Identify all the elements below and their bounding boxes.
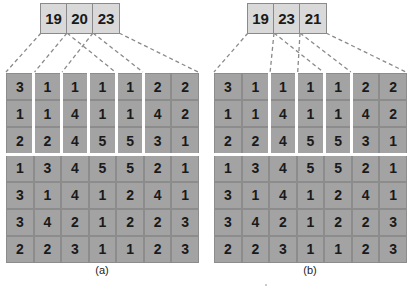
connector-line [6, 33, 41, 72]
matrix-cell: 1 [116, 236, 144, 263]
matrix-cell: 3 [34, 154, 62, 181]
matrix-cell: 2 [214, 127, 242, 154]
matrix-cell: 1 [89, 100, 117, 127]
matrix-cell: 4 [269, 154, 297, 181]
group-separator [295, 73, 298, 154]
matrix-cell: 1 [171, 127, 199, 154]
matrix-cell: 2 [352, 154, 380, 181]
matrix-cell: 3 [214, 182, 242, 209]
matrix-cell: 2 [171, 73, 199, 100]
matrix-cell: 2 [116, 209, 144, 236]
matrix-cell: 1 [324, 236, 352, 263]
matrix-cell: 4 [61, 182, 89, 209]
connector-line [300, 33, 351, 72]
row-group-separator [6, 153, 199, 156]
matrix-cell: 1 [242, 100, 270, 127]
matrix-cell: 3 [171, 209, 199, 236]
matrix-cell: 5 [297, 127, 325, 154]
matrix-cell: 1 [34, 73, 62, 100]
matrix-cell: 2 [214, 236, 242, 263]
matrix-cell: 1 [116, 100, 144, 127]
matrix-cell: 2 [6, 127, 34, 154]
matrix-cell: 1 [269, 73, 297, 100]
matrix-cell: 5 [89, 154, 117, 181]
matrix-cell: 2 [6, 236, 34, 263]
matrix-cell: 3 [61, 236, 89, 263]
matrix-cell: 2 [144, 236, 172, 263]
matrix-cell: 2 [34, 127, 62, 154]
group-separator [115, 73, 118, 154]
panel-a: 192023 311112211411422245531134552131412… [0, 0, 204, 291]
matrix-cell: 1 [34, 182, 62, 209]
matrix-cell: 2 [116, 182, 144, 209]
matrix-cell: 3 [6, 73, 34, 100]
matrix-cell: 2 [379, 100, 407, 127]
matrix-cell: 1 [379, 127, 407, 154]
sum-cell: 23 [93, 4, 119, 33]
sum-cell: 23 [274, 4, 300, 33]
group-separator [268, 73, 271, 154]
connector-line [214, 33, 248, 72]
matrix-cell: 5 [297, 154, 325, 181]
matrix-cell: 2 [269, 209, 297, 236]
matrix-cell: 5 [116, 154, 144, 181]
matrix-cell: 5 [324, 127, 352, 154]
matrix-cell: 3 [242, 154, 270, 181]
sum-cell: 21 [300, 4, 326, 33]
matrix-cell: 2 [352, 236, 380, 263]
group-separator [87, 73, 90, 154]
matrix-cell: 3 [6, 209, 34, 236]
matrix-cell: 1 [89, 182, 117, 209]
matrix-cell: 2 [144, 73, 172, 100]
matrix-cell: 3 [6, 182, 34, 209]
matrix-cell: 1 [6, 100, 34, 127]
matrix-cell: 2 [352, 209, 380, 236]
matrix-cell: 4 [352, 182, 380, 209]
sum-cell: 19 [41, 4, 67, 33]
matrix-cell: 1 [89, 209, 117, 236]
group-separator [323, 73, 326, 154]
matrix-grid-b: 3111122114114222455311345521314124134212… [214, 73, 407, 263]
stray-mark [265, 284, 267, 286]
matrix-cell: 1 [242, 182, 270, 209]
matrix-cell: 2 [144, 209, 172, 236]
matrix-cell: 4 [269, 182, 297, 209]
matrix-cell: 2 [34, 236, 62, 263]
matrix-cell: 4 [352, 100, 380, 127]
connector-line [119, 33, 198, 72]
matrix-cell: 1 [297, 236, 325, 263]
sum-row-b: 192321 [247, 3, 327, 34]
sum-cell: 20 [67, 4, 93, 33]
matrix-cell: 1 [297, 100, 325, 127]
matrix-cell: 1 [171, 154, 199, 181]
matrix-cell: 5 [324, 154, 352, 181]
matrix-cell: 1 [89, 73, 117, 100]
matrix-cell: 3 [379, 209, 407, 236]
sum-cell: 19 [248, 4, 274, 33]
matrix-cell: 1 [297, 182, 325, 209]
connector-line [93, 33, 143, 72]
matrix-cell: 5 [116, 127, 144, 154]
matrix-cell: 4 [144, 182, 172, 209]
group-separator [350, 73, 353, 154]
matrix-cell: 2 [61, 209, 89, 236]
matrix-cell: 2 [144, 154, 172, 181]
matrix-cell: 1 [61, 73, 89, 100]
matrix-cell: 1 [171, 182, 199, 209]
matrix-cell: 2 [352, 73, 380, 100]
caption-a: (a) [87, 264, 117, 276]
matrix-cell: 3 [352, 127, 380, 154]
matrix-cell: 1 [214, 100, 242, 127]
group-separator [60, 73, 63, 154]
panel-b: 192321 311112211411422245531134552131412… [207, 0, 409, 291]
connector-line [274, 33, 323, 72]
matrix-cell: 4 [34, 209, 62, 236]
matrix-cell: 4 [144, 100, 172, 127]
matrix-cell: 4 [61, 154, 89, 181]
matrix-cell: 1 [379, 182, 407, 209]
matrix-cell: 2 [324, 209, 352, 236]
connector-line [67, 33, 115, 72]
sum-row-a: 192023 [40, 3, 120, 34]
matrix-cell: 4 [269, 127, 297, 154]
connector-line [62, 33, 93, 72]
